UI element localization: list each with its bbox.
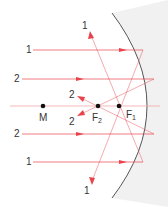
label-ray-1-top: 1 — [26, 45, 32, 55]
reflected-ray-2-up — [79, 97, 154, 134]
arrow-icon — [76, 132, 84, 136]
arrow-icon — [76, 77, 84, 81]
point-f2 — [96, 104, 101, 109]
label-f2-subscript: 2 — [98, 117, 102, 124]
label-ray-2-top: 2 — [14, 74, 20, 84]
reflected-ray-2-down — [79, 79, 154, 115]
mirror-back-shading — [112, 0, 168, 207]
label-reflected-ray-2-up: 2 — [69, 90, 75, 100]
label-f1-subscript: 1 — [132, 114, 136, 121]
label-point-f1: F1 — [126, 110, 136, 123]
label-ray-2-bottom: 2 — [14, 129, 20, 139]
point-f1 — [117, 104, 122, 109]
label-point-f2: F2 — [92, 113, 102, 126]
label-point-m: M — [39, 113, 47, 123]
arrow-icon — [77, 96, 85, 102]
arrow-icon — [89, 177, 95, 185]
reflected-ray-1-up — [91, 35, 143, 162]
arrow-icon — [119, 48, 127, 52]
label-reflected-ray-1-up: 1 — [82, 21, 88, 31]
arrow-icon — [119, 160, 127, 164]
label-reflected-ray-2-down: 2 — [69, 117, 75, 127]
arrow-icon — [77, 110, 85, 116]
label-reflected-ray-1-down: 1 — [84, 186, 90, 196]
arrow-icon — [88, 31, 94, 39]
label-ray-1-bottom: 1 — [26, 157, 32, 167]
point-m — [41, 104, 46, 109]
mirror-diagram — [0, 0, 168, 207]
